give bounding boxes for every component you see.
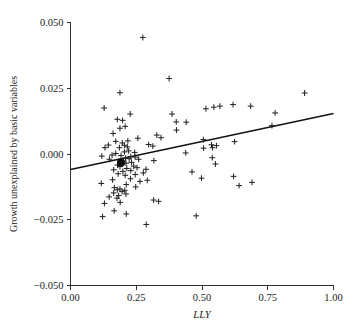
plus-point-marker: [120, 117, 126, 123]
plus-point-marker: [158, 135, 164, 141]
plus-point-marker: [132, 150, 138, 156]
plus-point-marker: [122, 123, 128, 129]
plus-point-marker: [117, 90, 123, 96]
plus-point-marker: [203, 106, 209, 112]
plus-point-marker: [209, 142, 215, 148]
plus-point-marker: [140, 170, 146, 176]
plus-point-marker: [211, 104, 217, 110]
plus-point-marker: [143, 166, 149, 172]
plus-point-marker: [126, 148, 132, 154]
plus-point-marker: [144, 177, 150, 183]
plus-point-marker: [217, 103, 223, 109]
x-tick-label: 0.75: [259, 292, 277, 303]
plus-point-marker: [111, 190, 117, 196]
plus-point-marker: [122, 187, 128, 193]
axis-spines: [71, 23, 334, 286]
x-tick-label: 0.25: [127, 292, 145, 303]
regression-fit-line: [71, 113, 334, 169]
plus-point-marker: [189, 169, 195, 175]
plus-point-marker: [232, 139, 238, 145]
plus-point-marker: [117, 145, 123, 151]
x-tick-label: 0.00: [61, 292, 79, 303]
plus-point-marker: [122, 149, 128, 155]
plus-point-marker: [133, 184, 139, 190]
plus-point-marker: [201, 145, 207, 151]
plus-point-marker: [249, 180, 255, 186]
plus-point-marker: [113, 138, 119, 144]
plus-point-marker: [272, 110, 278, 116]
plus-point-marker: [128, 176, 134, 182]
plus-point-marker: [114, 116, 120, 122]
plus-point-marker: [174, 127, 180, 133]
plus-point-marker: [248, 103, 254, 109]
y-tick-label: 0.025: [40, 83, 64, 94]
plus-point-marker: [106, 194, 112, 200]
y-tick-label: 0.050: [40, 17, 64, 28]
plus-point-marker: [169, 111, 175, 117]
plus-point-marker: [151, 158, 157, 164]
plus-point-marker: [127, 111, 133, 117]
plus-point-marker: [209, 155, 215, 161]
y-tick-label: 0.000: [40, 149, 64, 160]
plus-point-marker: [118, 153, 124, 159]
plus-point-marker: [193, 213, 199, 219]
regression-line: [71, 113, 334, 169]
x-axis-title: LLY: [192, 309, 211, 320]
plus-point-marker: [110, 131, 116, 137]
plus-point-marker: [101, 105, 107, 111]
plus-point-marker: [123, 211, 129, 217]
y-tick-label: −0.050: [34, 280, 64, 291]
plot-canvas: 0.0500.0250.000−0.025−0.0500.000.250.500…: [0, 0, 357, 329]
axis-labels: 0.0500.0250.000−0.025−0.0500.000.250.500…: [8, 17, 343, 319]
plus-point-marker: [199, 175, 205, 181]
plus-point-marker: [230, 102, 236, 108]
y-tick-label: −0.025: [34, 214, 64, 225]
data-points: [98, 35, 307, 228]
plus-point-marker: [132, 172, 138, 178]
scatter-plot-figure: 0.0500.0250.000−0.025−0.0500.000.250.500…: [0, 0, 357, 329]
plus-point-marker: [154, 132, 160, 138]
plus-point-marker: [111, 167, 117, 173]
plus-point-marker: [183, 119, 189, 125]
plus-point-marker: [156, 198, 162, 204]
plus-point-marker: [99, 153, 105, 159]
highlighted-point-marker: [117, 159, 125, 167]
plus-point-marker: [135, 135, 141, 141]
plus-point-marker: [183, 150, 189, 156]
plus-point-marker: [102, 201, 108, 207]
plus-point-marker: [236, 183, 242, 189]
plus-point-marker: [125, 138, 131, 144]
plus-point-marker: [166, 76, 172, 82]
plus-point-marker: [173, 119, 179, 125]
x-tick-label: 1.00: [324, 292, 342, 303]
plus-point-marker: [100, 214, 106, 220]
y-axis-title: Growth unexplained by basic variables: [8, 76, 19, 232]
plus-point-marker: [302, 90, 308, 96]
plus-point-marker: [111, 208, 117, 214]
plus-point-marker: [137, 178, 143, 184]
plus-point-marker: [110, 177, 116, 183]
plus-point-marker: [140, 35, 146, 41]
plus-point-marker: [117, 199, 123, 205]
plus-point-marker: [151, 197, 157, 203]
plus-point-marker: [213, 161, 219, 167]
plus-point-marker: [102, 145, 108, 151]
axes: [67, 23, 334, 290]
plus-point-marker: [98, 181, 104, 187]
plus-point-marker: [231, 173, 237, 179]
plus-point-marker: [105, 142, 111, 148]
x-tick-label: 0.50: [193, 292, 211, 303]
plus-point-marker: [143, 222, 149, 228]
plus-point-marker: [123, 182, 129, 188]
plus-point-marker: [117, 125, 123, 131]
